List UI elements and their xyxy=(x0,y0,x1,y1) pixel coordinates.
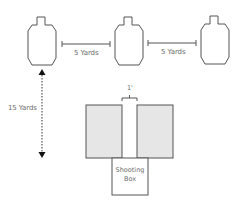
spacing-line-1 xyxy=(62,41,110,47)
spacing-label-1: 5 Yards xyxy=(74,49,98,57)
arrow-down-icon xyxy=(39,152,46,158)
shooting-box-line1: Shooting xyxy=(112,166,148,175)
shooting-box-label: Shooting Box xyxy=(112,166,148,184)
target-silhouette-left xyxy=(28,17,56,65)
gap-label: 1' xyxy=(127,84,133,92)
target-silhouette-center xyxy=(115,17,143,65)
spacing-label-2: 5 Yards xyxy=(161,48,185,56)
distance-arrow xyxy=(39,69,46,158)
barrier-left xyxy=(86,105,122,158)
target-silhouette-right xyxy=(201,16,229,64)
barrier-right xyxy=(137,105,173,158)
shooting-box-line2: Box xyxy=(112,175,148,184)
distance-label: 15 Yards xyxy=(8,104,37,112)
spacing-line-2 xyxy=(148,40,196,46)
gap-bracket xyxy=(122,95,137,101)
arrow-up-icon xyxy=(39,69,46,75)
